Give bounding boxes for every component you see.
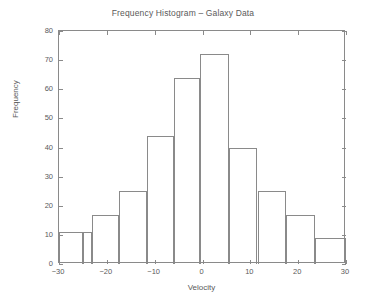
y-axis-tick-right <box>342 206 346 207</box>
x-axis-tick-top <box>59 31 60 35</box>
x-axis-tick-top <box>250 31 251 35</box>
y-axis-tick <box>59 206 63 207</box>
x-tick-label: 20 <box>282 267 312 276</box>
x-tick-label: −10 <box>139 267 169 276</box>
y-axis-tick <box>59 148 63 149</box>
y-tick-label: 70 <box>31 55 53 64</box>
y-axis-tick <box>59 177 63 178</box>
y-tick-label: 50 <box>31 113 53 122</box>
x-axis-tick <box>298 260 299 264</box>
y-axis-tick-right <box>342 177 346 178</box>
histogram-figure: Frequency Histogram – Galaxy Data 010203… <box>0 0 366 307</box>
x-axis-tick <box>203 260 204 264</box>
y-tick-label: 40 <box>31 143 53 152</box>
y-axis-tick <box>59 235 63 236</box>
chart-title: Frequency Histogram – Galaxy Data <box>0 8 366 18</box>
y-axis-tick <box>59 89 63 90</box>
y-tick-label: 80 <box>31 26 53 35</box>
x-axis-tick-top <box>155 31 156 35</box>
y-axis-tick-right <box>342 118 346 119</box>
y-tick-label: 30 <box>31 172 53 181</box>
y-axis-tick-right <box>342 264 346 265</box>
y-axis-title: Frequency <box>11 80 20 118</box>
y-axis-tick-right <box>342 235 346 236</box>
x-axis-title: Velocity <box>58 283 345 292</box>
x-axis-tick <box>346 260 347 264</box>
x-tick-label: −20 <box>91 267 121 276</box>
y-axis-tick-right <box>342 60 346 61</box>
x-tick-label: −30 <box>43 267 73 276</box>
y-axis-tick-right <box>342 89 346 90</box>
y-axis-tick <box>59 60 63 61</box>
y-tick-label: 10 <box>31 230 53 239</box>
y-tick-label: 20 <box>31 201 53 210</box>
plot-area <box>58 30 345 263</box>
x-axis-tick <box>59 260 60 264</box>
y-tick-label: 60 <box>31 84 53 93</box>
x-axis-tick-top <box>298 31 299 35</box>
x-tick-label: 0 <box>187 267 217 276</box>
x-tick-label: 10 <box>234 267 264 276</box>
x-axis-tick-top <box>346 31 347 35</box>
y-axis-tick <box>59 118 63 119</box>
x-axis-tick-top <box>203 31 204 35</box>
x-axis-tick <box>250 260 251 264</box>
x-tick-label: 30 <box>330 267 360 276</box>
x-axis-tick <box>107 260 108 264</box>
x-axis-tick <box>155 260 156 264</box>
y-axis-tick-right <box>342 148 346 149</box>
x-axis-tick-top <box>107 31 108 35</box>
y-axis-tick <box>59 264 63 265</box>
axis-ticks-layer <box>59 31 346 264</box>
